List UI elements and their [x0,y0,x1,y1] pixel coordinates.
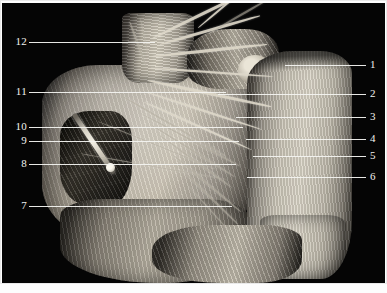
label-number-5: 5 [370,150,385,161]
label-number-9: 9 [10,135,27,146]
deep-axillary-recess [60,111,132,207]
leader-line-1 [285,65,366,66]
leader-line-4 [246,139,366,140]
label-number-6: 6 [370,171,385,182]
leader-line-6 [247,177,366,178]
leader-line-8 [29,164,236,165]
figure-plate: 121110987123456 [0,0,387,293]
label-number-3: 3 [370,111,385,122]
leader-line-3 [236,117,366,118]
photograph-plate: 121110987123456 [2,3,385,283]
leader-line-7 [29,206,232,207]
scapular-wedge-tissue [152,225,302,283]
label-number-4: 4 [370,133,385,144]
leader-line-5 [253,156,366,157]
leader-line-10 [29,127,243,128]
label-number-7: 7 [10,200,27,211]
label-number-12: 12 [10,36,27,47]
leader-line-2 [218,94,366,95]
leader-line-9 [29,141,239,142]
label-number-8: 8 [10,158,27,169]
label-number-10: 10 [10,121,27,132]
leader-line-12 [29,42,155,43]
leader-line-11 [29,92,226,93]
label-number-1: 1 [370,59,385,70]
label-number-2: 2 [370,88,385,99]
label-number-11: 11 [10,86,27,97]
